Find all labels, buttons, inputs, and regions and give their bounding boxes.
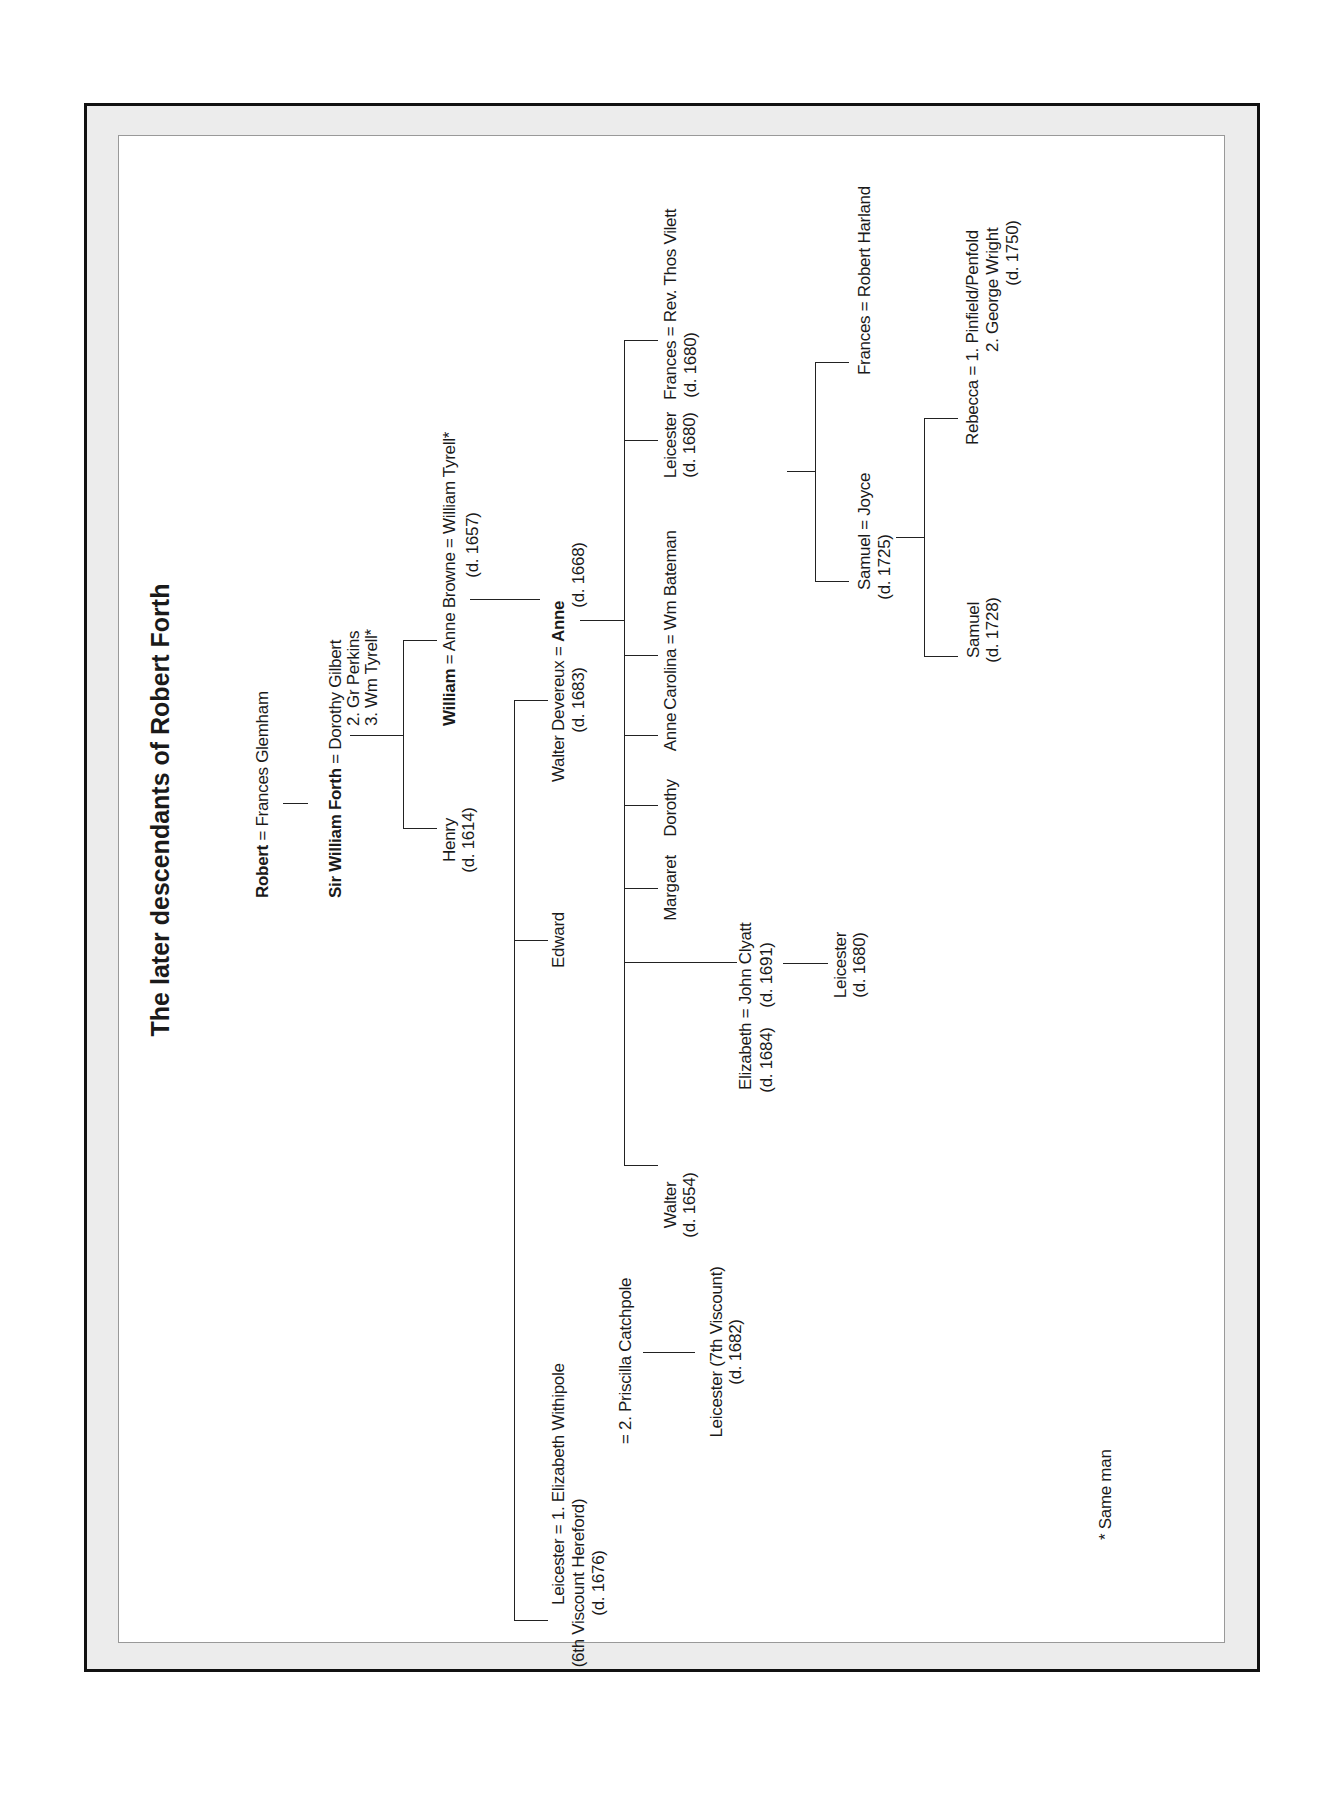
child-stub [403, 640, 437, 641]
john-clyatt-dates: (d. 1691) [757, 942, 776, 1007]
dorothy: Dorothy [661, 779, 680, 836]
descent-line [283, 803, 308, 804]
descent-line [643, 1352, 695, 1353]
descent-line [787, 471, 815, 472]
rebecca-husband-2: 2. George Wright [983, 228, 1002, 352]
sibling-bracket [924, 418, 925, 656]
henry: Henry (d. 1614) [440, 807, 478, 872]
priscilla-catchpole: = 2. Priscilla Catchpole [616, 1278, 635, 1444]
page-title: The later descendants of Robert Forth [151, 584, 170, 1037]
sibling-bracket [403, 640, 404, 828]
margaret: Margaret [661, 855, 680, 921]
leicester-6th-dates: (d. 1676) [589, 1550, 608, 1615]
walter-devereux-couple: Walter Devereux = Anne [549, 601, 568, 782]
william-tyrell-name: William Tyrell* [440, 432, 459, 534]
child-stub [624, 655, 658, 656]
rebecca-couple: Rebecca = 1. Pinfield/Penfold [963, 230, 982, 445]
robert-couple: Robert = Frances Glemham [253, 691, 272, 898]
marriage-sign: = [253, 827, 272, 845]
child-stub [624, 805, 658, 806]
samuel-d1728: Samuel (d. 1728) [964, 597, 1002, 662]
frances-vilett-couple: Frances = Rev. Thos Vilett [661, 209, 680, 400]
child-stub [514, 940, 548, 941]
frances-glemham-name: Frances Glemham [253, 691, 272, 826]
john-clyatt-name: John Clyatt [736, 923, 755, 1005]
descent-line [580, 620, 624, 621]
frances-harland-couple: Frances = Robert Harland [855, 186, 874, 375]
elizabeth-clyatt-line: Elizabeth = John Clyatt [736, 905, 755, 1090]
sir-william-forth-name: Sir William Forth [326, 768, 345, 898]
anne-name: Anne [549, 601, 568, 642]
anne-browne-dates: (d. 1657) [463, 512, 482, 577]
leicester-6th-couple: Leicester = 1. Elizabeth Withipole [549, 1363, 568, 1605]
carolina-couple: Carolina = Wm Bateman [661, 530, 680, 709]
child-stub [514, 1620, 548, 1621]
wife-3: 3. Wm Tyrell* [362, 629, 381, 726]
sibling-bracket [514, 700, 515, 1620]
anne-dates: (d. 1668) [569, 542, 588, 607]
child-stub [624, 440, 658, 441]
sibling-bracket [624, 340, 625, 1165]
leicester-d1680: Leicester (d. 1680) [661, 412, 699, 478]
child-stub [624, 735, 658, 736]
william-couple: William = Anne Browne = William Tyrell* [440, 432, 459, 726]
leicester-7th: Leicester (7th Viscount) (d. 1682) [707, 1266, 745, 1437]
samuel-dates: (d. 1725) [875, 534, 894, 599]
child-stub [815, 581, 849, 582]
descent-line [470, 599, 540, 600]
elizabeth-name: Elizabeth [736, 1023, 755, 1090]
walter-devereux-dates: (d. 1683) [569, 667, 588, 732]
leicester-6th-title: (6th Viscount Hereford) [569, 1499, 588, 1668]
anne-daughter: Anne [661, 713, 680, 752]
edward: Edward [549, 912, 568, 968]
sibling-bracket [815, 362, 816, 581]
child-stub [815, 362, 849, 363]
descent-line [783, 963, 828, 964]
leicester-clyatt: Leicester (d. 1680) [831, 932, 869, 998]
descent-line [896, 537, 924, 538]
walter: Walter (d. 1654) [661, 1172, 699, 1237]
child-stub [624, 340, 658, 341]
child-stub [924, 418, 958, 419]
george-wright-dates: (d. 1750) [1003, 220, 1022, 285]
marriage-sign: = [326, 750, 345, 768]
child-stub [624, 888, 658, 889]
dorothy-gilbert-name: Dorothy Gilbert [326, 640, 345, 750]
sir-william-forth-couple: Sir William Forth = Dorothy Gilbert [326, 640, 345, 898]
child-stub [624, 1165, 658, 1166]
elizabeth-dates: (d. 1684) [757, 1027, 776, 1092]
anne-browne-name: Anne Browne [440, 552, 459, 651]
wife-2: 2. Gr Perkins [344, 631, 363, 726]
robert-name: Robert [253, 845, 272, 898]
william-name: William [440, 669, 459, 726]
footnote: * Same man [1096, 1449, 1115, 1540]
descent-line [350, 735, 403, 736]
child-stub [403, 828, 437, 829]
samuel-joyce-couple: Samuel = Joyce [855, 473, 874, 590]
frances-dates: (d. 1680) [681, 332, 700, 397]
child-stub [924, 656, 958, 657]
walter-devereux-name: Walter Devereux [549, 661, 568, 782]
child-stub [514, 700, 548, 701]
child-stub [624, 962, 737, 963]
